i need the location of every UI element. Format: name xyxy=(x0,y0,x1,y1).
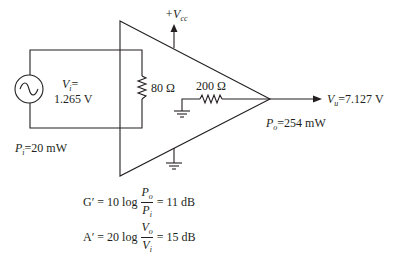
internal-wire xyxy=(182,99,200,111)
input-voltage-value: 1.265 V xyxy=(54,93,92,105)
output-arrow-icon xyxy=(313,96,322,103)
voltage-gain-equation: A′ = 20 log Vo Vi = 15 dB xyxy=(83,221,196,254)
resistor-200 xyxy=(200,95,222,103)
ground-icon-internal xyxy=(174,111,190,117)
input-power-label: Pi=20 mW xyxy=(15,142,67,157)
amplifier-circuit xyxy=(0,0,394,258)
vcc-label: +Vcc xyxy=(165,8,188,23)
input-wire xyxy=(30,50,142,76)
resistor-80-label: 80 Ω xyxy=(151,82,175,94)
power-gain-equation: G′ = 10 log Po Pi = 11 dB xyxy=(83,186,195,219)
resistor-200-label: 200 Ω xyxy=(196,80,226,92)
output-voltage-label: Vu=7.127 V xyxy=(327,93,384,108)
output-power-label: Po=254 mW xyxy=(266,117,326,132)
input-voltage-label: Vi= xyxy=(62,78,78,93)
ground-icon-bottom xyxy=(166,163,182,169)
resistor-80 xyxy=(138,76,146,99)
vcc-arrow-icon xyxy=(171,24,178,32)
sine-icon xyxy=(20,83,38,95)
